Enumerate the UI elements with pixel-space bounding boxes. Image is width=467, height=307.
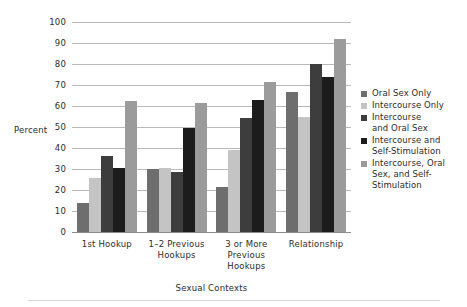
bar: [298, 117, 310, 233]
x-tick-label-line: Relationship: [273, 239, 359, 250]
bar: [101, 156, 113, 232]
y-tick-label: 50: [55, 122, 66, 132]
bar: [195, 103, 207, 232]
legend-label-line: Intercourse and: [372, 135, 441, 146]
plot-area: 1009080706050403020100 1st Hookup1–2 Pre…: [72, 22, 351, 232]
legend-item[interactable]: Oral Sex Only: [361, 88, 465, 99]
legend-label-line: Self-Stimulation: [372, 146, 441, 157]
y-tick-label: 40: [55, 143, 66, 153]
legend-label: Intercourse Only: [372, 100, 444, 111]
bar: [147, 169, 159, 232]
y-tick-label: 100: [49, 17, 66, 27]
bar: [183, 128, 195, 232]
y-tick-label: 10: [55, 206, 66, 216]
bar-group: [142, 22, 212, 232]
legend-swatch-icon: [361, 138, 367, 144]
bar-group: [212, 22, 282, 232]
x-tick-label-line: Hookups: [203, 261, 289, 272]
x-tick-label: Relationship: [273, 239, 359, 250]
legend-label-line: Intercourse: [372, 112, 428, 123]
x-tick-label-line: Previous: [203, 250, 289, 261]
bar: [252, 100, 264, 232]
legend-swatch-icon: [361, 161, 367, 167]
y-tick-label: 0: [60, 227, 66, 237]
legend-item[interactable]: Intercourseand Oral Sex: [361, 112, 465, 134]
y-tick-label: 20: [55, 185, 66, 195]
bar: [216, 187, 228, 232]
y-tick-label: 90: [55, 38, 66, 48]
y-tick-label: 80: [55, 59, 66, 69]
y-tick-label: 70: [55, 80, 66, 90]
bar: [77, 203, 89, 232]
y-axis-title: Percent: [14, 125, 47, 135]
bar: [310, 64, 322, 232]
bar-chart-figure: Percent 1009080706050403020100 1st Hooku…: [0, 0, 467, 307]
legend-label-line: Sex, and Self-: [372, 169, 445, 180]
bar: [125, 101, 137, 232]
bar-group: [72, 22, 142, 232]
bar: [322, 77, 334, 232]
y-tick-label: 30: [55, 164, 66, 174]
bar: [286, 92, 298, 232]
bottom-divider: [28, 300, 440, 301]
bar: [264, 82, 276, 232]
bar: [171, 172, 183, 232]
legend-label-line: Stimulation: [372, 180, 445, 191]
legend-swatch-icon: [361, 103, 367, 109]
legend-label-line: Intercourse, Oral: [372, 158, 445, 169]
legend-swatch-icon: [361, 115, 367, 121]
bar: [89, 178, 101, 232]
x-axis-title: Sexual Contexts: [72, 283, 351, 293]
legend-label-line: Intercourse Only: [372, 100, 444, 111]
bar: [334, 39, 346, 232]
legend-label: Oral Sex Only: [372, 88, 431, 99]
bar-group: [281, 22, 351, 232]
legend-label-line: Oral Sex Only: [372, 88, 431, 99]
legend-item[interactable]: Intercourse andSelf-Stimulation: [361, 135, 465, 157]
legend-label: Intercourse, OralSex, and Self-Stimulati…: [372, 158, 445, 191]
legend-label: Intercourse andSelf-Stimulation: [372, 135, 441, 157]
bar: [159, 168, 171, 232]
legend-swatch-icon: [361, 91, 367, 97]
legend-label-line: and Oral Sex: [372, 123, 428, 134]
bar: [113, 168, 125, 232]
gridline: [72, 232, 351, 233]
bar: [240, 118, 252, 232]
y-tick-label: 60: [55, 101, 66, 111]
legend-label: Intercourseand Oral Sex: [372, 112, 428, 134]
legend-item[interactable]: Intercourse Only: [361, 100, 465, 111]
bar: [228, 150, 240, 232]
chart-legend: Oral Sex OnlyIntercourse OnlyIntercourse…: [361, 88, 465, 192]
legend-item[interactable]: Intercourse, OralSex, and Self-Stimulati…: [361, 158, 465, 191]
